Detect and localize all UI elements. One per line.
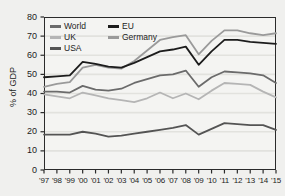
- legend-item-eu[interactable]: EU: [108, 22, 170, 31]
- series-line-usa: [44, 123, 276, 136]
- series-line-uk: [44, 83, 276, 102]
- legend-label: World: [64, 22, 86, 31]
- chart-legend: WorldEUUKGermanyUSA: [50, 21, 170, 54]
- legend-item-uk[interactable]: UK: [50, 33, 108, 42]
- legend-item-usa[interactable]: USA: [50, 44, 108, 53]
- legend-item-world[interactable]: World: [50, 22, 108, 31]
- legend-swatch-icon: [50, 47, 61, 50]
- x-tick-label: '15: [267, 177, 285, 185]
- legend-swatch-icon: [108, 25, 119, 28]
- legend-label: EU: [122, 22, 134, 31]
- legend-label: UK: [64, 33, 76, 42]
- legend-item-germany[interactable]: Germany: [108, 33, 170, 42]
- legend-swatch-icon: [50, 36, 61, 39]
- legend-label: USA: [64, 44, 81, 53]
- chart-container: % of GDP 80706050403020100 '97'98'99'00'…: [0, 0, 285, 196]
- legend-label: Germany: [122, 33, 157, 42]
- legend-swatch-icon: [108, 36, 119, 39]
- legend-swatch-icon: [50, 25, 61, 28]
